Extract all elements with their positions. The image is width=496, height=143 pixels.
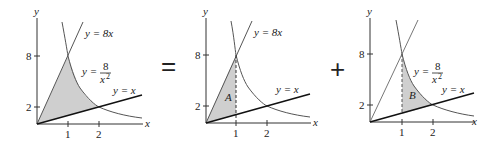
- panel-total: y x 8 2 1 2 y = 8x y = 8 x 2 y = x: [26, 5, 150, 140]
- y-tick-label-8: 8: [359, 48, 365, 60]
- label-hyperbola-exponent: 2: [106, 72, 110, 81]
- x-tick-label-2: 2: [96, 128, 102, 140]
- y-tick-label-8: 8: [195, 49, 201, 61]
- label-y-x: y = x: [441, 83, 465, 95]
- y-tick-label-2: 2: [26, 101, 32, 113]
- y-tick-label-2: 2: [359, 99, 365, 111]
- y-axis-label: y: [366, 5, 372, 17]
- region-label-a: A: [224, 91, 232, 103]
- x-axis-label: x: [144, 117, 150, 129]
- x-tick-label-2: 2: [430, 126, 436, 138]
- x-tick-label-1: 1: [65, 128, 71, 140]
- y-axis-label: y: [33, 5, 39, 17]
- label-hyperbola-lhs: y =: [413, 65, 429, 77]
- region-label-b: B: [409, 89, 416, 101]
- label-y-8x: y = 8x: [84, 27, 113, 39]
- area-decomposition-figure: y x 8 2 1 2 y = 8x y = 8 x 2 y = x = y x…: [0, 0, 496, 143]
- label-hyperbola-denominator: x: [99, 73, 105, 85]
- x-axis-label: x: [471, 115, 477, 127]
- label-hyperbola-lhs: y =: [81, 65, 97, 77]
- panel-region-a: y x 8 2 1 2 y = 8x y = x A: [195, 5, 318, 139]
- label-hyperbola-numerator: 8: [103, 60, 109, 72]
- x-tick-label-1: 1: [399, 126, 405, 138]
- label-hyperbola-exponent: 2: [438, 72, 442, 81]
- y-axis-label: y: [202, 5, 208, 17]
- label-y-x: y = x: [112, 84, 136, 96]
- y-tick-label-2: 2: [195, 100, 201, 112]
- label-hyperbola-numerator: 8: [435, 60, 441, 72]
- label-y-8x: y = 8x: [253, 26, 282, 38]
- x-tick-label-2: 2: [264, 127, 270, 139]
- panel-region-b: y x 8 2 1 2 y = 8 x 2 y = x B: [359, 5, 477, 138]
- plus-sign: +: [330, 54, 345, 84]
- x-tick-label-1: 1: [233, 127, 239, 139]
- equals-sign: =: [161, 51, 176, 81]
- label-y-x: y = x: [275, 83, 299, 95]
- x-axis-label: x: [312, 116, 318, 128]
- label-hyperbola-denominator: x: [431, 73, 437, 85]
- y-tick-label-8: 8: [26, 50, 32, 62]
